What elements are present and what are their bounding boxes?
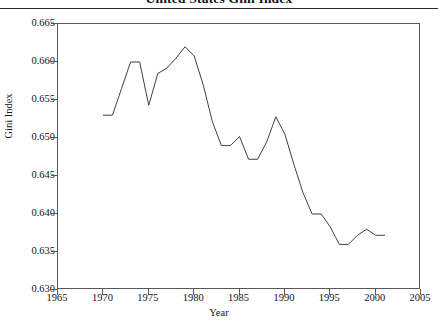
chart-title: United States Gini Index	[0, 0, 438, 7]
plot-svg	[58, 24, 421, 290]
gini-index-chart-figure: United States Gini Index Gini Index Year…	[0, 0, 438, 327]
y-tick-label: 0.645	[9, 169, 55, 180]
y-tick-label: 0.665	[9, 17, 55, 28]
plot-area	[57, 23, 420, 289]
gini-index-data-line	[103, 47, 384, 245]
x-tick-label: 2005	[397, 292, 438, 303]
y-axis-title-text: Gini Index	[3, 56, 14, 176]
x-axis-title: Year	[0, 307, 438, 318]
y-tick-label: 0.660	[9, 55, 55, 66]
y-tick-label: 0.650	[9, 131, 55, 142]
y-tick-label: 0.655	[9, 93, 55, 104]
title-divider-rule	[0, 8, 438, 9]
y-tick-label: 0.640	[9, 207, 55, 218]
y-tick-label: 0.635	[9, 245, 55, 256]
